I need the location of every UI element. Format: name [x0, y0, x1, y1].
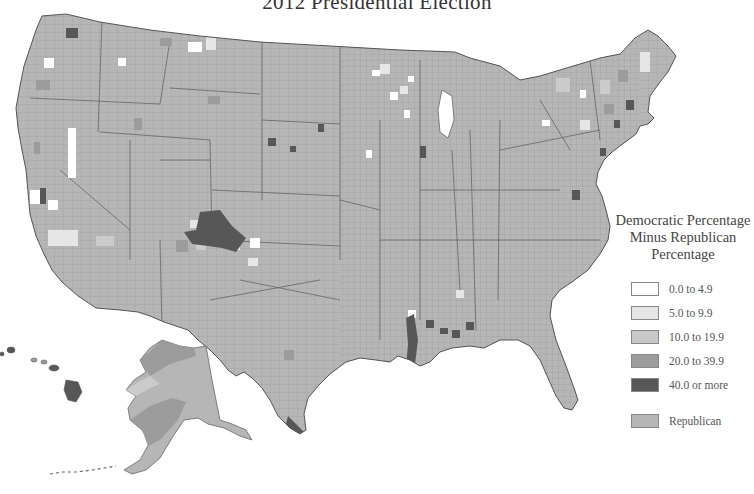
legend-item-0-4.9: 0.0 to 4.9: [612, 277, 754, 301]
legend-item-republican: Republican: [612, 409, 754, 433]
legend-item-40-plus: 40.0 or more: [612, 373, 754, 397]
legend-swatch: [631, 306, 659, 320]
legend-label: 0.0 to 4.9: [669, 283, 712, 295]
legend-label: 10.0 to 19.9: [669, 331, 724, 343]
legend-swatch: [631, 414, 659, 428]
legend-item-10-19.9: 10.0 to 19.9: [612, 325, 754, 349]
hawaii: [0, 347, 82, 402]
legend-swatch: [631, 378, 659, 392]
legend-item-5-9.9: 5.0 to 9.9: [612, 301, 754, 325]
legend-label: 5.0 to 9.9: [669, 307, 712, 319]
legend-item-20-39.9: 20.0 to 39.9: [612, 349, 754, 373]
legend-title-line-1: Democratic Percentage: [612, 212, 754, 229]
legend-label: Republican: [669, 415, 721, 427]
legend-title-line-3: Percentage: [612, 246, 754, 263]
legend-swatch: [631, 354, 659, 368]
legend-label: 40.0 or more: [669, 379, 728, 391]
legend-swatch: [631, 282, 659, 296]
legend: Democratic Percentage Minus Republican P…: [612, 212, 754, 433]
contiguous-us: [16, 14, 676, 434]
legend-label: 20.0 to 39.9: [669, 355, 724, 367]
legend-swatch: [631, 330, 659, 344]
legend-title-line-2: Minus Republican: [612, 229, 754, 246]
legend-title: Democratic Percentage Minus Republican P…: [612, 212, 754, 263]
